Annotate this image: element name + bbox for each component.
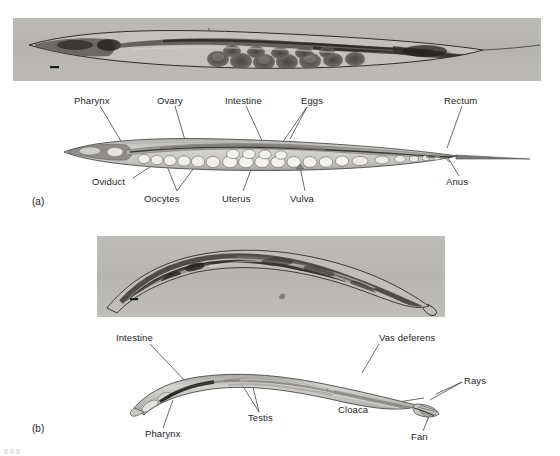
label-intestine-hermaphrodite: Intestine [225,95,262,106]
label-uterus: Uterus [222,193,251,204]
label-eggs: Eggs [301,95,323,106]
male-tail-fan [413,404,439,418]
scale-bar [130,298,138,300]
label-rectum: Rectum [444,95,477,106]
hermaphrodite-micrograph [13,18,541,81]
label-pharynx-hermaphrodite: Pharynx [74,95,110,106]
label-vas-deferens: Vas deferens [379,332,435,343]
label-ovary: Ovary [157,95,183,106]
panel-letter-a: (a) [32,196,44,207]
page-corner-artifact [4,449,20,454]
male-diagram [128,350,458,422]
hermaphrodite-diagram [60,126,550,188]
label-pharynx-male: Pharynx [145,428,181,439]
scale-bar [50,66,59,68]
label-anus: Anus [446,176,468,187]
label-oviduct: Oviduct [92,176,125,187]
label-vulva: Vulva [290,193,314,204]
label-testis: Testis [248,412,273,423]
male-micrograph [97,236,445,317]
label-fan: Fan [411,431,428,442]
label-oocytes: Oocytes [144,193,180,204]
label-cloaca: Cloaca [338,404,368,415]
label-rays: Rays [464,375,486,386]
label-intestine-male: Intestine [116,332,153,343]
panel-letter-b: (b) [32,423,44,434]
figure-canvas: Pharynx Ovary Intestine Eggs Rectum Ovid… [0,0,560,456]
